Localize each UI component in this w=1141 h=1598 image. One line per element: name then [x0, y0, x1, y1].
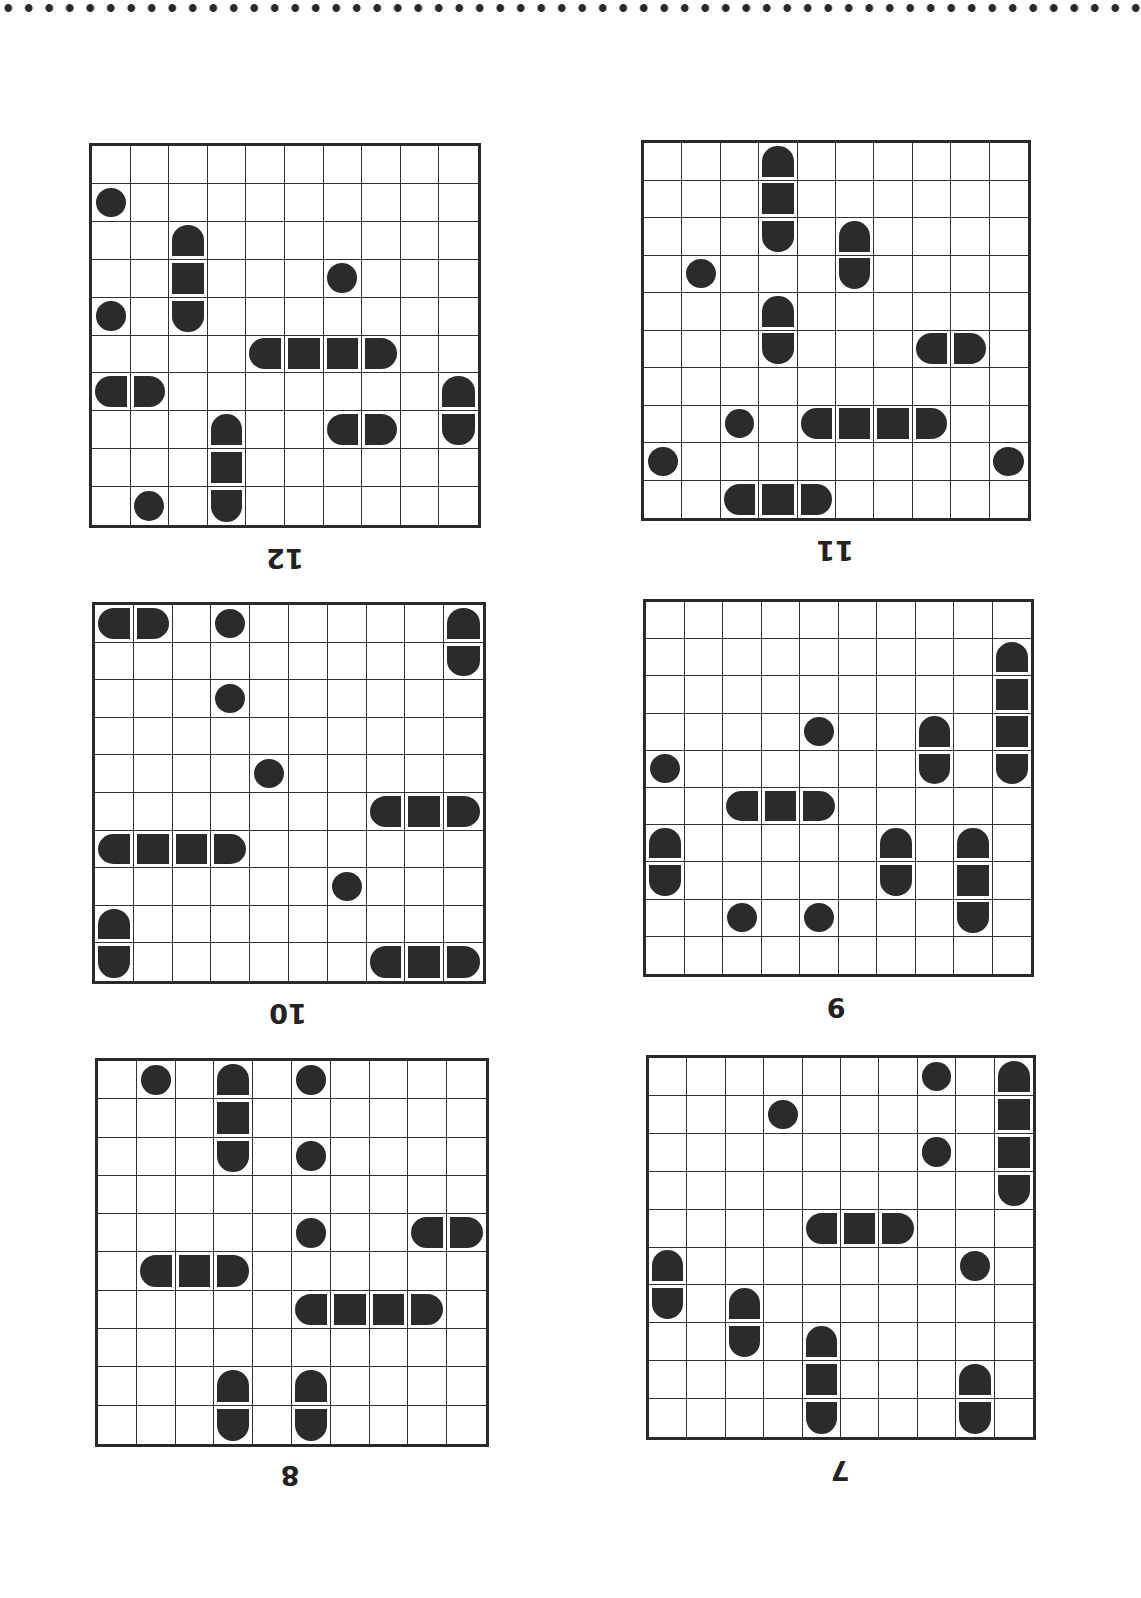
grid-cell — [918, 1285, 956, 1323]
ship-segment-bottom-icon — [959, 1402, 990, 1434]
grid-cell — [447, 1329, 486, 1367]
grid-cell — [839, 862, 878, 899]
grid-cell — [324, 146, 363, 184]
ship-segment-mid-icon — [217, 1102, 249, 1133]
grid-cell — [956, 1248, 994, 1286]
grid-cell — [913, 406, 951, 444]
grid-cell — [644, 443, 682, 481]
grid-cell — [723, 900, 762, 937]
grid-cell — [98, 1367, 137, 1405]
grid-cell — [137, 1099, 176, 1137]
grid-cell — [134, 868, 173, 906]
grid-cell — [208, 449, 247, 487]
grid-cell — [646, 900, 685, 937]
grid-cell — [649, 1248, 687, 1286]
grid-cell — [176, 1214, 215, 1252]
grid-cell — [246, 449, 285, 487]
grid-cell — [836, 143, 874, 181]
submarine-icon — [134, 491, 164, 521]
grid-cell — [439, 184, 478, 222]
submarine-icon — [141, 1065, 171, 1095]
grid-cell — [839, 602, 878, 639]
grid-cell — [954, 639, 993, 676]
grid-cell — [877, 751, 916, 788]
grid-cell — [401, 260, 440, 298]
grid-cell — [367, 831, 406, 869]
grid-cell — [803, 1361, 841, 1399]
grid-cell — [726, 1172, 764, 1210]
grid-cell — [292, 1099, 331, 1137]
grid-cell — [444, 943, 483, 981]
grid-cell — [646, 676, 685, 713]
grid-cell — [98, 1214, 137, 1252]
grid-cell — [250, 718, 289, 756]
grid-cell — [762, 937, 801, 974]
grid-cell — [134, 605, 173, 643]
grid-cell — [405, 755, 444, 793]
ship-segment-left-icon — [98, 834, 130, 865]
grid-cell — [800, 788, 839, 825]
grid-cell — [134, 943, 173, 981]
grid-cell — [682, 331, 720, 369]
grid-cell — [444, 605, 483, 643]
grid-cell — [246, 487, 285, 525]
ship-segment-bottom-icon — [996, 754, 1028, 784]
grid-cell — [253, 1138, 292, 1176]
grid-cell — [134, 906, 173, 944]
grid-cell — [836, 293, 874, 331]
grid-cell — [913, 143, 951, 181]
grid-cell — [803, 1134, 841, 1172]
grid-cell — [208, 336, 247, 374]
ship-segment-left-icon — [411, 1217, 443, 1248]
grid-cell — [401, 336, 440, 374]
submarine-icon — [686, 259, 716, 288]
ship-segment-right-icon — [882, 1213, 913, 1244]
grid-cell — [879, 1285, 917, 1323]
grid-cell — [289, 906, 328, 944]
grid-cell — [367, 868, 406, 906]
grid-cell — [913, 293, 951, 331]
grid-cell — [324, 298, 363, 336]
grid-cell — [367, 643, 406, 681]
ship-segment-left-icon — [801, 408, 832, 439]
grid-cell — [246, 260, 285, 298]
grid-cell — [685, 937, 724, 974]
grid-cell — [292, 1214, 331, 1252]
grid-cell — [331, 1252, 370, 1290]
ship-segment-right-icon — [217, 1255, 249, 1286]
grid-cell — [214, 1291, 253, 1329]
grid-cell — [759, 331, 797, 369]
grid-cell — [408, 1061, 447, 1099]
grid-cell — [682, 256, 720, 294]
ship-segment-top-icon — [839, 221, 870, 252]
grid-cell — [990, 406, 1028, 444]
grid-cell — [250, 831, 289, 869]
ship-segment-mid-icon — [998, 1137, 1030, 1168]
grid-cell — [723, 937, 762, 974]
grid-cell — [841, 1285, 879, 1323]
grid-cell — [916, 937, 955, 974]
grid-cell — [367, 680, 406, 718]
grid-cell — [995, 1134, 1033, 1172]
ship-segment-bottom-icon — [172, 301, 204, 332]
grid-cell — [285, 336, 324, 374]
grid-cell — [995, 1096, 1033, 1134]
grid-cell — [644, 406, 682, 444]
grid-cell — [956, 1361, 994, 1399]
grid-cell — [176, 1329, 215, 1367]
grid-cell — [798, 368, 836, 406]
ship-segment-mid-icon — [176, 834, 208, 865]
grid-cell — [916, 900, 955, 937]
submarine-icon — [215, 684, 245, 713]
grid-cell — [762, 639, 801, 676]
grid-cell — [92, 449, 131, 487]
grid-cell — [134, 680, 173, 718]
grid-cell — [253, 1291, 292, 1329]
grid-cell — [98, 1061, 137, 1099]
grid-cell — [916, 825, 955, 862]
grid-cell — [995, 1361, 1033, 1399]
grid-cell — [131, 336, 170, 374]
grid-cell — [370, 1214, 409, 1252]
grid-cell — [169, 336, 208, 374]
grid-cell — [292, 1252, 331, 1290]
